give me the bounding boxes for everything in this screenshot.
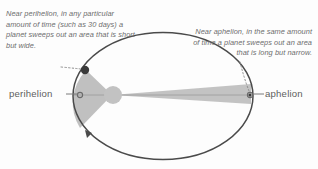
label-aphelion: aphelion bbox=[265, 88, 303, 99]
planet-at-perihelion bbox=[81, 66, 89, 74]
caption-aphelion: Near aphelion, in the same amount of tim… bbox=[192, 27, 312, 59]
caption-perihelion: Near perihelion, in any particular amoun… bbox=[6, 9, 138, 51]
aphelion-swept-sector bbox=[112, 84, 251, 104]
label-perihelion: perihelion bbox=[9, 88, 53, 99]
perihelion-caption-pointer bbox=[61, 67, 81, 69]
planet-at-aphelion bbox=[249, 94, 252, 97]
sun bbox=[104, 86, 122, 104]
diagram-canvas: Near perihelion, in any particular amoun… bbox=[0, 0, 318, 169]
